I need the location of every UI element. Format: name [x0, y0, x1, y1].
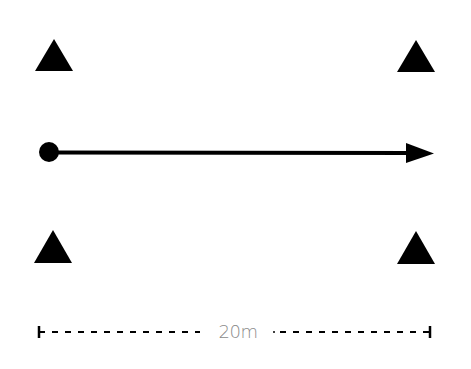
cone-bottom-right-icon [397, 231, 435, 264]
cone-bottom-left-icon [34, 230, 72, 263]
cone-top-right-icon [397, 40, 435, 72]
distance-right-dot [273, 331, 275, 333]
cone-top-left-icon [35, 39, 73, 71]
drill-diagram [0, 0, 471, 369]
run-arrow-shaft [56, 153, 410, 154]
start-marker-icon [39, 142, 59, 162]
run-arrow-head-icon [406, 143, 434, 163]
distance-label: 20m [207, 321, 269, 343]
